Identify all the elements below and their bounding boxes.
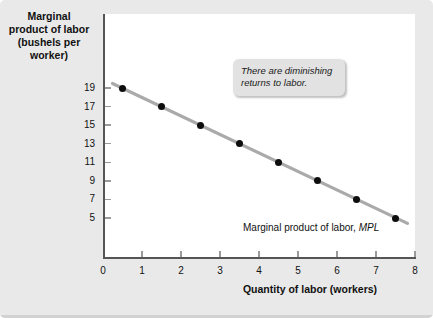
x-tick-mark [336,251,338,257]
y-axis-line [103,14,105,259]
y-tick-label: 19 [69,83,95,93]
mpl-line [103,14,415,257]
x-tick-label: 2 [171,265,191,276]
x-tick-mark [297,251,299,257]
data-point [353,196,360,203]
x-tick-label: 6 [327,265,347,276]
y-tick-mark [105,217,111,219]
y-tick-mark [105,180,111,182]
y-axis-title: Marginal product of labor (bushels per w… [0,10,98,62]
y-tick-label: 5 [69,213,95,223]
data-point [392,215,399,222]
x-tick-mark [180,251,182,257]
x-tick-label: 0 [93,265,113,276]
y-axis-title-line-1: Marginal [0,10,98,23]
data-point [275,159,282,166]
series-label: Marginal product of labor, MPL [243,222,379,233]
x-tick-label: 5 [288,265,308,276]
plot-area [103,14,415,257]
y-tick-label: 17 [69,102,95,112]
x-tick-mark [141,251,143,257]
x-tick-label: 7 [366,265,386,276]
y-tick-mark [105,124,111,126]
y-tick-label: 9 [69,176,95,186]
data-point [119,85,126,92]
y-tick-label: 11 [69,157,95,167]
y-tick-mark [105,162,111,164]
y-tick-label: 7 [69,194,95,204]
series-label-text: Marginal product of labor, [243,222,359,233]
y-axis-title-line-4: worker) [0,49,98,62]
y-tick-mark [105,143,111,145]
x-tick-mark [258,251,260,257]
x-tick-mark [219,251,221,257]
x-tick-label: 3 [210,265,230,276]
y-tick-mark [105,87,111,89]
y-tick-label: 13 [69,139,95,149]
x-tick-label: 4 [249,265,269,276]
x-tick-mark [414,251,416,257]
annotation-callout: There are diminishing returns to labor. [233,59,345,96]
y-tick-mark [105,106,111,108]
y-tick-label: 15 [69,120,95,130]
x-tick-label: 1 [132,265,152,276]
data-point [158,103,165,110]
y-axis-title-line-2: product of labor [0,23,98,36]
data-point [197,122,204,129]
y-tick-mark [105,199,111,201]
x-axis-title: Quantity of labor (workers) [205,283,415,295]
x-tick-label: 8 [405,265,425,276]
series-label-symbol: MPL [359,222,380,233]
figure-panel: Marginal product of labor (bushels per w… [0,0,433,318]
x-tick-mark [375,251,377,257]
y-axis-title-line-3: (bushels per [0,36,98,49]
x-axis-line [103,257,416,259]
